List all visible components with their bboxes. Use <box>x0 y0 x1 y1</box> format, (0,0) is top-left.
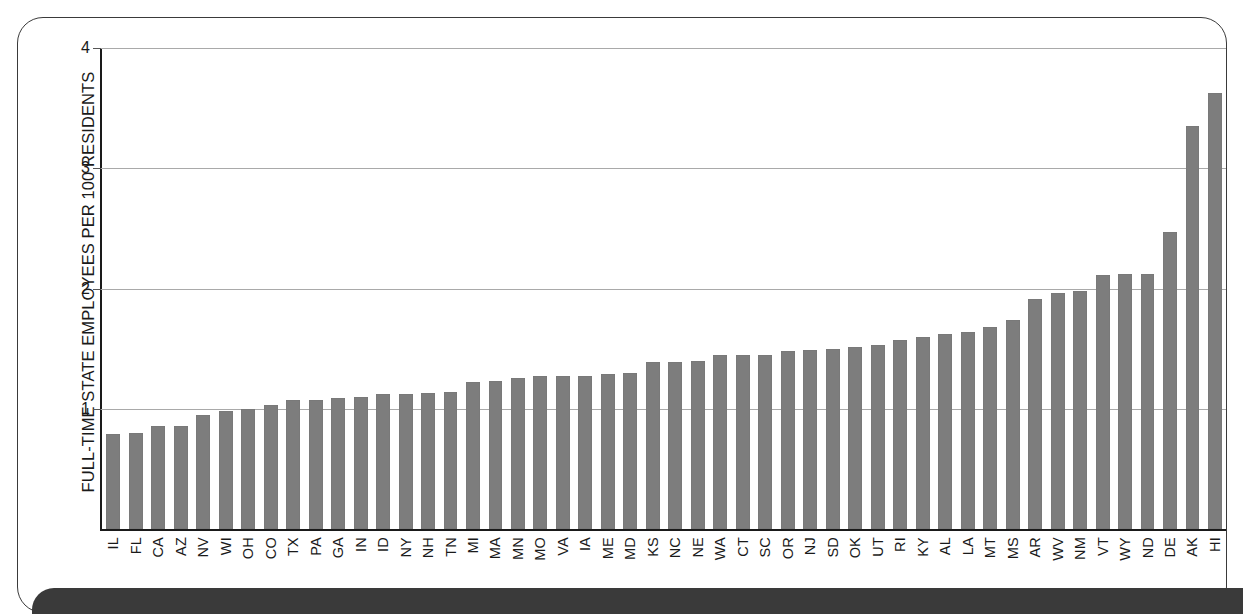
x-axis-label-ms: MS <box>1005 537 1021 559</box>
x-axis-label-il: IL <box>105 537 121 550</box>
x-label-slot: NY <box>394 535 416 589</box>
bar-md <box>623 373 637 529</box>
bar-slot <box>327 48 349 529</box>
bar-slot <box>372 48 394 529</box>
bar-ut <box>871 345 885 529</box>
x-label-slot: CO <box>259 535 281 589</box>
bar-tn <box>444 392 458 529</box>
bar-wa <box>713 355 727 529</box>
x-label-slot: MI <box>462 535 484 589</box>
bar-slot <box>124 48 146 529</box>
x-axis-label-mt: MT <box>982 537 998 558</box>
x-axis-labels: ILFLCAAZNVWIOHCOTXPAGAINIDNYNHTNMIMAMNMO… <box>102 535 1226 589</box>
bar-slot <box>911 48 933 529</box>
x-axis-label-la: LA <box>960 537 976 555</box>
bar-tx <box>286 400 300 529</box>
x-label-slot: TN <box>439 535 461 589</box>
x-label-slot: IA <box>574 535 596 589</box>
x-label-slot: AK <box>1181 535 1203 589</box>
bar-slot <box>1159 48 1181 529</box>
x-axis-label-ca: CA <box>150 537 166 558</box>
bar-slot <box>1001 48 1023 529</box>
bar-nm <box>1073 291 1087 529</box>
bar-slot <box>529 48 551 529</box>
tick-mark-1 <box>93 409 101 410</box>
x-axis-line <box>100 529 1226 531</box>
x-axis-label-az: AZ <box>173 537 189 556</box>
bar-ky <box>916 337 930 529</box>
y-tick-label: 4 <box>66 40 90 56</box>
bar-ks <box>646 362 660 529</box>
x-axis-label-ma: MA <box>487 537 503 559</box>
bar-mt <box>983 327 997 529</box>
x-axis-label-nc: NC <box>667 537 683 558</box>
x-axis-label-wv: WV <box>1050 537 1066 561</box>
x-axis-label-ut: UT <box>870 537 886 557</box>
bar-slot <box>417 48 439 529</box>
x-axis-label-ny: NY <box>398 537 414 558</box>
bar-fl <box>129 433 143 529</box>
x-axis-label-de: DE <box>1162 537 1178 558</box>
bar-slot <box>1204 48 1226 529</box>
bar-de <box>1163 232 1177 529</box>
bar-me <box>601 374 615 529</box>
bar-slot <box>1069 48 1091 529</box>
bar-slot <box>192 48 214 529</box>
bar-nh <box>421 393 435 529</box>
bar-slot <box>642 48 664 529</box>
plot-area: 1234 <box>100 48 1226 529</box>
bar-slot <box>147 48 169 529</box>
bar-or <box>781 351 795 529</box>
bar-slot <box>259 48 281 529</box>
x-label-slot: MD <box>619 535 641 589</box>
x-axis-label-pa: PA <box>308 537 324 556</box>
x-axis-label-ga: GA <box>330 537 346 558</box>
x-axis-label-me: ME <box>600 537 616 559</box>
bar-ia <box>578 376 592 529</box>
x-axis-label-id: ID <box>375 537 391 552</box>
x-axis-label-ar: AR <box>1027 537 1043 558</box>
bar-mn <box>511 378 525 530</box>
bar-slot <box>574 48 596 529</box>
x-label-slot: TX <box>282 535 304 589</box>
bar-id <box>376 394 390 529</box>
bar-ct <box>736 355 750 529</box>
x-axis-label-nj: NJ <box>802 537 818 555</box>
bar-slot <box>844 48 866 529</box>
x-label-slot: WY <box>1114 535 1136 589</box>
x-label-slot: IL <box>102 535 124 589</box>
bar-wv <box>1051 293 1065 529</box>
bar-al <box>938 334 952 529</box>
bar-slot <box>732 48 754 529</box>
bar-ar <box>1028 299 1042 529</box>
x-label-slot: AR <box>1024 535 1046 589</box>
bar-slot <box>282 48 304 529</box>
bar-sd <box>826 349 840 529</box>
bar-in <box>354 397 368 529</box>
x-axis-label-sd: SD <box>825 537 841 558</box>
bar-slot <box>169 48 191 529</box>
x-label-slot: SC <box>754 535 776 589</box>
bar-nj <box>803 350 817 529</box>
bar-slot <box>1091 48 1113 529</box>
x-axis-label-ak: AK <box>1184 537 1200 557</box>
x-label-slot: SD <box>822 535 844 589</box>
chart-page: FULL-TIME STATE EMPLOYEES PER 100 RESIDE… <box>0 0 1243 614</box>
bar-ca <box>151 426 165 529</box>
x-axis-label-ks: KS <box>645 537 661 557</box>
bar-sc <box>758 355 772 529</box>
x-axis-label-al: AL <box>937 537 953 555</box>
x-label-slot: VA <box>552 535 574 589</box>
bar-slot <box>687 48 709 529</box>
x-axis-label-ne: NE <box>690 537 706 558</box>
x-label-slot: ND <box>1136 535 1158 589</box>
x-axis-label-ok: OK <box>847 537 863 558</box>
bar-ny <box>399 394 413 529</box>
bar-hi <box>1208 93 1222 530</box>
bar-slot <box>1024 48 1046 529</box>
bar-oh <box>241 409 255 529</box>
bar-nd <box>1141 274 1155 529</box>
x-axis-label-hi: HI <box>1207 537 1223 552</box>
x-label-slot: OK <box>844 535 866 589</box>
bar-slot <box>1181 48 1203 529</box>
